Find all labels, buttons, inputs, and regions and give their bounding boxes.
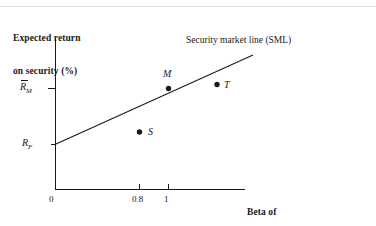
y-tick-rf-subscript: F xyxy=(28,143,32,151)
x-axis-title: Beta of security xyxy=(247,185,280,226)
data-point-label-S: S xyxy=(148,126,153,138)
overbar-icon xyxy=(21,80,28,81)
security-market-line xyxy=(56,55,253,144)
y-tick-rm-subscript: M xyxy=(26,87,32,95)
y-axis-title-line1: Expected return xyxy=(13,33,81,44)
y-tick-rm-letter: R xyxy=(20,81,26,92)
y-axis-title-line2: on security (%) xyxy=(13,66,81,77)
data-point-label-T: T xyxy=(224,79,230,91)
x-tick-label-08: 0.8 xyxy=(132,194,143,204)
chart-figure: Expected return on security (%) Beta of … xyxy=(0,0,376,226)
data-point-M xyxy=(166,86,171,91)
sml-annotation-label: Security market line (SML) xyxy=(186,35,291,46)
data-point-T xyxy=(214,82,219,87)
y-tick-label-rf: RF xyxy=(22,137,32,151)
y-tick-label-rm: RM xyxy=(20,81,32,95)
x-tick-label-0: 0 xyxy=(49,194,54,204)
y-tick-rm-base: R xyxy=(20,81,26,93)
data-point-label-M: M xyxy=(163,68,171,80)
x-axis-title-line1: Beta of xyxy=(247,207,280,218)
sml-leader-line xyxy=(226,47,240,61)
x-tick-label-1: 1 xyxy=(164,194,169,204)
data-point-S xyxy=(137,129,142,134)
